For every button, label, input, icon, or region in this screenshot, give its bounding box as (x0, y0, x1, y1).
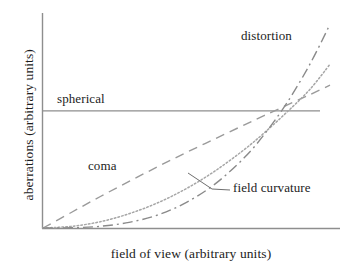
series-line-coma (43, 85, 330, 228)
series-label-distortion: distortion (241, 29, 292, 42)
y-axis-label: aberrations (arbitrary units) (22, 20, 36, 230)
chart-plot-area (0, 0, 360, 274)
x-axis-label: field of view (arbitrary units) (42, 247, 340, 261)
series-label-coma: coma (88, 159, 117, 172)
series-label-field-curvature: field curvature (233, 181, 311, 194)
series-label-spherical: spherical (57, 92, 105, 105)
aberrations-figure: aberrations (arbitrary units) field of v… (0, 0, 360, 274)
series-line-distortion (43, 24, 330, 228)
series-line-field-curvature (43, 64, 330, 228)
